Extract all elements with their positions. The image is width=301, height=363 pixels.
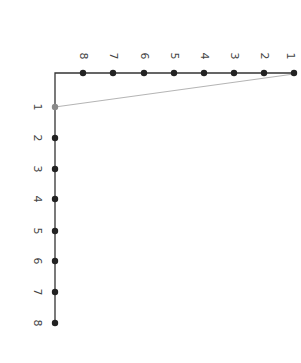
side-node-4: [52, 196, 58, 202]
top-label-7: 7: [107, 53, 120, 60]
side-node-7: [52, 289, 58, 295]
top-label-6: 6: [138, 53, 151, 60]
top-label-2: 2: [258, 53, 271, 60]
side-node-1: [52, 104, 58, 110]
side-node-6: [52, 258, 58, 264]
top-node-8: [80, 70, 86, 76]
side-label-6: 6: [31, 258, 44, 265]
side-node-5: [52, 228, 58, 234]
top-label-1: 1: [284, 53, 297, 60]
side-node-2: [52, 135, 58, 141]
side-node-8: [52, 320, 58, 326]
side-label-4: 4: [31, 196, 44, 203]
top-node-2: [261, 70, 267, 76]
top-label-8: 8: [77, 53, 90, 60]
side-node-3: [52, 166, 58, 172]
top-row-labels: 1 2 3 4 5 6 7 8: [77, 53, 297, 60]
side-label-5: 5: [31, 228, 44, 235]
top-node-4: [201, 70, 207, 76]
side-label-3: 3: [31, 166, 44, 173]
top-node-6: [141, 70, 147, 76]
side-label-2: 2: [31, 135, 44, 142]
top-node-5: [171, 70, 177, 76]
connector-line: [55, 74, 294, 107]
top-node-1: [291, 70, 297, 76]
sequence-diagram: 1 2 3 4 5 6 7 8 1 2 3 4 5 6 7 8: [0, 0, 301, 363]
top-label-4: 4: [198, 53, 211, 60]
top-node-3: [231, 70, 237, 76]
side-label-8: 8: [31, 320, 44, 327]
side-column-labels: 1 2 3 4 5 6 7 8: [31, 104, 44, 327]
top-row-line: [55, 73, 294, 323]
top-node-7: [110, 70, 116, 76]
side-label-7: 7: [31, 289, 44, 296]
top-label-5: 5: [168, 53, 181, 60]
top-label-3: 3: [228, 53, 241, 60]
side-label-1: 1: [31, 104, 44, 111]
